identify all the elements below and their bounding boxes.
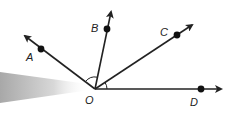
angle-COD-arc: [105, 82, 107, 89]
point-A: [38, 46, 45, 53]
point-B: [104, 26, 111, 33]
label-B: B: [91, 22, 98, 34]
label-O: O: [85, 94, 94, 106]
point-C: [174, 32, 181, 39]
shadow-wedge: [0, 72, 90, 103]
rays: [25, 12, 221, 89]
label-C: C: [160, 26, 168, 38]
angle-diagram: A B C O D: [0, 0, 227, 120]
point-D: [198, 86, 205, 93]
angle-AOB-arc: [85, 77, 97, 82]
label-D: D: [190, 96, 198, 108]
label-A: A: [25, 51, 33, 63]
